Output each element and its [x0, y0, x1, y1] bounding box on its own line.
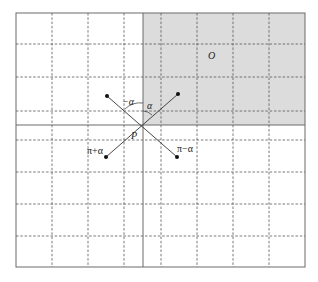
label-alpha: α — [147, 100, 153, 111]
endpoint-lower-left — [104, 155, 108, 159]
label-region-o: O — [208, 50, 215, 61]
label-neg-alpha: −α — [122, 96, 135, 107]
label-pi-plus-alpha: π+α — [87, 145, 104, 156]
endpoint-upper-left — [105, 94, 109, 98]
grid-angle-diagram: O P −α α π+α π−α — [0, 0, 318, 282]
shaded-region-o — [143, 13, 305, 125]
endpoint-lower-right — [175, 155, 179, 159]
label-pi-minus-alpha: π−α — [177, 143, 194, 154]
endpoint-upper-right — [176, 92, 180, 96]
label-point-p: P — [130, 130, 137, 141]
